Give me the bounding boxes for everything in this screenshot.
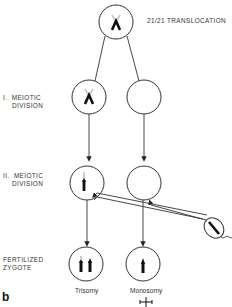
lethal-cross-icon <box>140 297 152 307</box>
zygote-monosomy <box>126 247 160 281</box>
stage-2-label-line1: II. MEIOTIC <box>3 172 43 180</box>
stage-2-label-line2: DIVISION <box>12 180 43 188</box>
stage-3-label-line2: ZYGOTE <box>3 264 32 272</box>
parent-cell <box>99 5 133 39</box>
trisomy-label: Trisomy <box>75 287 98 294</box>
stage-3-label-line1: FERTILIZED <box>3 256 43 264</box>
meiosis-1-cell-left <box>72 80 106 114</box>
meiosis-2-cell-right <box>127 166 161 200</box>
zygote-trisomy <box>69 247 103 281</box>
stage-1-label-line2: DIVISION <box>12 102 43 110</box>
meiosis-1-cell-right <box>127 80 161 114</box>
stage-1-label-line1: I. MEIOTIC <box>3 94 41 102</box>
panel-letter: b <box>2 290 9 304</box>
sperm-cell <box>200 214 232 242</box>
meiosis-2-cell-left <box>70 166 104 200</box>
monosomy-label: Monosomy <box>130 287 162 294</box>
diagram-title: 21/21 TRANSLOCATION <box>147 17 226 25</box>
